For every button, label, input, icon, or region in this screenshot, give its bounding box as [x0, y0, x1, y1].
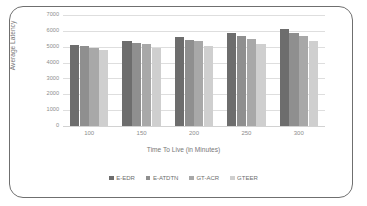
- legend-swatch-icon: [146, 176, 151, 181]
- y-tick-label: 5000: [15, 44, 59, 50]
- bar-group: [273, 15, 325, 126]
- bar-group: [63, 15, 115, 126]
- bar: [237, 36, 246, 126]
- legend-item[interactable]: GT-ACR: [189, 175, 219, 181]
- legend-item[interactable]: E-EDR: [109, 175, 135, 181]
- bar: [175, 37, 184, 126]
- bar: [309, 41, 318, 126]
- bar: [70, 45, 79, 126]
- y-tick-label: 3000: [15, 76, 59, 82]
- x-tick-label: 150: [122, 130, 162, 136]
- bar-chart: Average Latency 010002000300040005000600…: [0, 0, 367, 206]
- bar: [256, 44, 265, 126]
- x-tick-label: 100: [69, 130, 109, 136]
- bar: [99, 50, 108, 126]
- x-tick-label: 300: [279, 130, 319, 136]
- bar: [194, 41, 203, 126]
- x-axis-title: Time To Live (in Minutes): [0, 146, 367, 153]
- legend-swatch-icon: [189, 176, 194, 181]
- y-tick-label: 1000: [15, 107, 59, 113]
- legend-item[interactable]: GTEER: [230, 175, 258, 181]
- x-tick-label: 200: [174, 130, 214, 136]
- bar-group: [168, 15, 220, 126]
- legend-item[interactable]: E-ATDTN: [146, 175, 179, 181]
- x-tick-label: 250: [226, 130, 266, 136]
- bar: [122, 41, 131, 126]
- bar: [299, 36, 308, 126]
- bar: [80, 46, 89, 126]
- legend-label: GT-ACR: [196, 175, 219, 181]
- bar: [152, 48, 161, 126]
- legend-swatch-icon: [109, 176, 114, 181]
- legend-label: E-EDR: [116, 175, 135, 181]
- y-tick-label: 2000: [15, 91, 59, 97]
- legend-label: E-ATDTN: [153, 175, 179, 181]
- bar: [289, 33, 298, 126]
- chart-legend: E-EDRE-ATDTNGT-ACRGTEER: [0, 175, 367, 181]
- legend-swatch-icon: [230, 176, 235, 181]
- bar: [132, 43, 141, 126]
- bar: [142, 44, 151, 126]
- bar: [280, 29, 289, 126]
- bar-group: [115, 15, 167, 126]
- gridline: [63, 126, 325, 127]
- y-tick-label: 7000: [15, 12, 59, 18]
- bar: [247, 39, 256, 126]
- bar-group: [220, 15, 272, 126]
- y-tick-label: 0: [15, 123, 59, 129]
- y-tick-label: 6000: [15, 28, 59, 34]
- y-tick-label: 4000: [15, 60, 59, 66]
- bar: [204, 46, 213, 126]
- plot-area: [63, 15, 325, 126]
- legend-label: GTEER: [237, 175, 258, 181]
- bar: [227, 33, 236, 126]
- bar: [89, 48, 98, 126]
- bar: [185, 40, 194, 126]
